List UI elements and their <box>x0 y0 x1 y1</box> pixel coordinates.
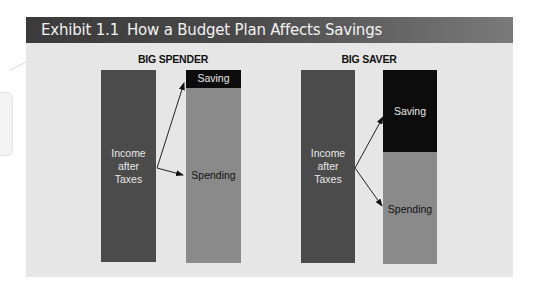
arrow-to-saving <box>355 117 383 168</box>
arrow-to-spending <box>355 168 382 206</box>
arrow-to-saving <box>157 83 184 168</box>
flow-arrows <box>0 0 539 289</box>
arrow-to-spending <box>157 168 183 175</box>
